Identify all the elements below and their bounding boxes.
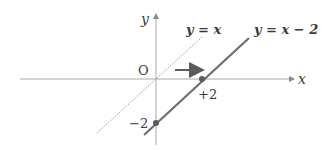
origin-label: O xyxy=(138,63,149,78)
line-y-equals-x-minus-2 xyxy=(144,38,249,135)
label-y-equals-x-minus-2: y = x − 2 xyxy=(253,22,318,37)
point-y-intercept xyxy=(153,120,159,126)
point-x-intercept xyxy=(199,76,205,82)
label-minus-2: −2 xyxy=(129,116,148,131)
line-y-equals-x xyxy=(97,37,202,133)
x-axis-label: x xyxy=(298,71,306,87)
y-axis-label: y xyxy=(140,11,150,27)
label-plus-2: +2 xyxy=(198,87,217,102)
label-y-equals-x: y = x xyxy=(185,22,221,37)
coordinate-diagram: y x O y = x y = x − 2 +2 −2 xyxy=(0,0,326,150)
